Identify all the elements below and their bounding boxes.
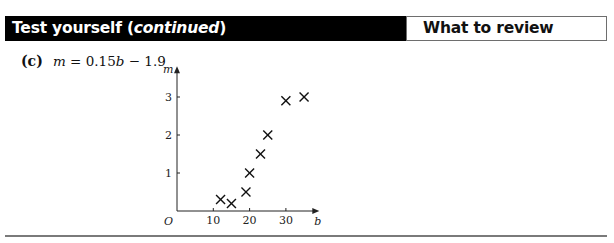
scatter-chart: 102030123Obm — [0, 0, 614, 243]
x-axis-label: b — [314, 215, 321, 228]
y-tick-label: 2 — [165, 129, 172, 142]
data-point-cross-icon — [300, 93, 309, 102]
y-axis-arrow-icon — [174, 66, 180, 73]
data-point-cross-icon — [256, 150, 265, 159]
x-tick-label: 20 — [243, 214, 257, 227]
x-axis-arrow-icon — [312, 208, 319, 214]
data-point-cross-icon — [263, 131, 272, 140]
y-tick-label: 1 — [165, 167, 172, 180]
data-point-cross-icon — [241, 188, 250, 197]
chart-labels: 102030123Obm — [163, 63, 321, 228]
origin-label: O — [164, 215, 173, 228]
x-tick-label: 30 — [279, 214, 293, 227]
data-point-cross-icon — [245, 169, 254, 178]
chart-points — [216, 93, 308, 208]
data-point-cross-icon — [227, 199, 236, 208]
bottom-rule — [5, 235, 607, 237]
x-tick-label: 10 — [206, 214, 220, 227]
data-point-cross-icon — [216, 195, 225, 204]
y-tick-label: 3 — [165, 91, 172, 104]
y-axis-label: m — [163, 63, 173, 76]
data-point-cross-icon — [281, 96, 290, 105]
